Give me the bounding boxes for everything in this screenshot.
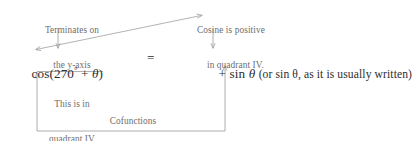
note-quadrant-line2: quadrant IV (41, 134, 103, 142)
note-quadrant-line1: This is in (41, 99, 103, 111)
equation-right-side: + sin θ (or sin θ, as it is usually writ… (205, 50, 412, 98)
equals-sign: = (147, 50, 155, 66)
parenthetical-note: (or sin θ, as it is usually written) (259, 68, 412, 81)
sin-function-name: sin (230, 66, 246, 81)
note-cofunctions-label: Cofunctions (103, 116, 163, 128)
sign-plus: + (219, 66, 227, 81)
trig-identity-figure: Terminates on the y-axis Cosine is posit… (0, 0, 418, 141)
note-terminates-line1: Terminates on (24, 25, 120, 37)
theta-variable-right: θ (249, 66, 256, 81)
note-quadrant-four: This is in quadrant IV for small θ. (41, 76, 103, 141)
note-cosine-line1: Cosine is positive (197, 25, 317, 37)
